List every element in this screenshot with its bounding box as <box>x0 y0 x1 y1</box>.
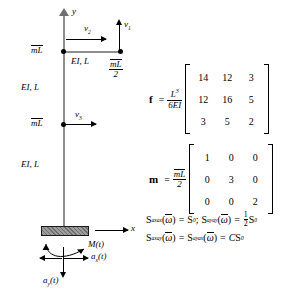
f-cell-2-1: 5 <box>215 110 239 132</box>
ay-suffix: (t) <box>50 275 59 285</box>
s2-value-subscript: 0 <box>254 217 257 223</box>
mass-equation: m = mL 2 1 0 0 0 3 0 0 0 2 <box>149 144 273 214</box>
v2-label: v2 <box>84 24 91 35</box>
flexibility-equals: = <box>159 94 165 105</box>
v2-index: 2 <box>88 29 91 35</box>
s2-half-den: 2 <box>244 220 248 228</box>
f-cell-2-0: 3 <box>191 110 215 132</box>
y-axis-arrowhead <box>59 8 69 16</box>
flexibility-matrix: 14 12 3 12 16 5 3 5 2 <box>191 66 263 132</box>
flexibility-equation: f = L3 6EI 14 12 3 12 16 5 3 5 <box>149 64 269 134</box>
mass-coef-den: 2 <box>173 180 187 189</box>
s1-omega-bar: ω <box>165 214 172 225</box>
mass-coefficient: mL 2 <box>173 169 187 190</box>
f-cell-1-1: 16 <box>215 88 239 110</box>
fixed-base-support <box>41 226 89 236</box>
joint-mass-text: mL <box>31 45 43 55</box>
m-cell-1-2: 0 <box>243 168 267 190</box>
beam-line <box>64 51 120 53</box>
f-cell-0-0: 14 <box>191 66 215 88</box>
ay-arrow-down <box>63 247 64 272</box>
m-cell-0-2: 0 <box>243 146 267 168</box>
s3-arg-close: ) <box>172 232 175 243</box>
x-axis-arrow <box>95 230 128 231</box>
mid-column-mass-text: mL <box>31 118 43 128</box>
beam-tip-mass-num: mL <box>110 59 122 69</box>
flexibility-coefficient: L3 6EI <box>167 88 182 110</box>
flexibility-matrix-bracket: 14 12 3 12 16 5 3 5 2 <box>185 64 269 134</box>
table-row: 3 5 2 <box>191 110 263 132</box>
joint-node <box>61 49 66 54</box>
ax-arrow-left <box>40 258 62 259</box>
table-row: 14 12 3 <box>191 66 263 88</box>
s2-omega-bar: ω <box>221 214 228 225</box>
s1-equals: = <box>179 214 185 225</box>
table-row: 1 0 0 <box>195 146 267 168</box>
mid-column-mass-label: mL <box>31 118 43 128</box>
s1-separator: ; <box>196 214 199 225</box>
s1-arg-close: ) <box>172 214 175 225</box>
s2-arg-close: ) <box>228 214 231 225</box>
table-row: 12 16 5 <box>191 88 263 110</box>
v1-index: 1 <box>128 25 131 31</box>
flexibility-coef-exp: 3 <box>176 88 179 94</box>
s3-omega-bar: ω <box>165 232 172 243</box>
spectra-line-1: Saxax(ω) = S0; Sayay(ω) = 1 2 S0 <box>146 211 257 229</box>
flexibility-symbol: f <box>149 93 153 105</box>
f-cell-1-2: 5 <box>239 88 263 110</box>
s2-subscript: ayay <box>207 217 217 223</box>
s4-constant: C <box>229 232 236 243</box>
flexibility-coef-den: 6EI <box>167 101 182 110</box>
mass-symbol: m <box>149 173 158 185</box>
v3-index: 3 <box>79 115 82 121</box>
m-cell-1-0: 0 <box>195 168 219 190</box>
m-cell-2-2: 2 <box>243 190 267 212</box>
v3-label: v3 <box>75 110 82 121</box>
ax-suffix: (t) <box>98 251 107 261</box>
s4-omega-bar: ω <box>207 232 214 243</box>
s1-subscript: axax <box>152 217 162 223</box>
beam-tip-mass-label: mL 2 <box>109 59 123 80</box>
s2-equals: = <box>234 214 240 225</box>
figure-canvas: y v2 v1 v3 mL mL mL 2 EI, L EI, L EI, L … <box>0 0 291 293</box>
ax-label: ax(t) <box>91 252 106 263</box>
mass-matrix-bracket: 1 0 0 0 3 0 0 0 2 <box>189 144 273 214</box>
column-line <box>63 14 65 226</box>
s3-subscript: axay <box>152 235 162 241</box>
s3-equals-1: = <box>179 232 185 243</box>
v1-label: v1 <box>124 20 131 31</box>
v3-arrow <box>66 124 96 125</box>
table-row: 0 3 0 <box>195 168 267 190</box>
base-moment-label: M(t) <box>88 240 104 249</box>
m-cell-1-1: 3 <box>219 168 243 190</box>
m-cell-2-1: 0 <box>219 190 243 212</box>
v1-arrow <box>119 25 120 50</box>
m-cell-2-0: 0 <box>195 190 219 212</box>
m-cell-0-1: 0 <box>219 146 243 168</box>
v2-arrow <box>66 39 106 40</box>
f-cell-2-2: 2 <box>239 110 263 132</box>
f-cell-0-2: 3 <box>239 66 263 88</box>
y-axis-label: y <box>72 7 76 16</box>
mass-matrix: 1 0 0 0 3 0 0 0 2 <box>195 146 267 212</box>
ax-arrow-right <box>64 258 88 259</box>
beam-member-label: EI, L <box>71 57 89 66</box>
mass-coef-num: mL <box>174 169 186 179</box>
mass-equals: = <box>164 174 170 185</box>
f-cell-1-0: 12 <box>191 88 215 110</box>
upper-column-member-label: EI, L <box>21 83 39 92</box>
lower-column-member-label: EI, L <box>21 160 39 169</box>
ay-label: ay(t) <box>43 276 58 287</box>
s4-equals-2: = <box>220 232 226 243</box>
m-cell-0-0: 1 <box>195 146 219 168</box>
joint-mass-label: mL <box>31 45 43 55</box>
beam-tip-mass-den: 2 <box>109 70 123 79</box>
s4-value-subscript: 0 <box>241 235 244 241</box>
spectra-line-2: Saxay(ω) = Sayax(ω) = CS0 <box>146 232 244 243</box>
x-axis-label: x <box>131 224 135 233</box>
s2-half-fraction: 1 2 <box>244 211 248 229</box>
table-row: 0 0 2 <box>195 190 267 212</box>
f-cell-0-1: 12 <box>215 66 239 88</box>
s4-subscript: ayax <box>193 235 203 241</box>
s4-arg-close: ) <box>214 232 217 243</box>
